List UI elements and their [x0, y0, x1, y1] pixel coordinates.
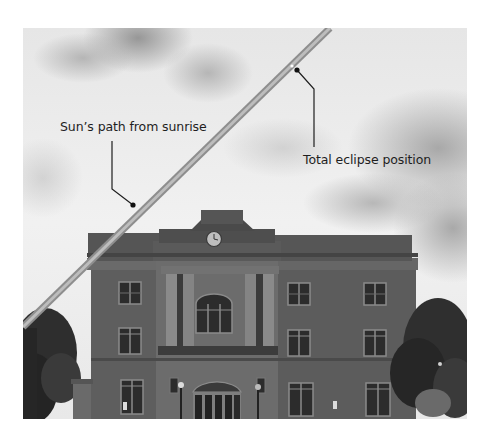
sun-path-label: Sun’s path from sunrise: [60, 119, 207, 134]
clock-icon: [207, 232, 222, 247]
eclipse-point: [290, 64, 293, 67]
eclipse-position-label: Total eclipse position: [303, 152, 431, 167]
courthouse-building: [71, 210, 418, 419]
photo-scene: [23, 28, 467, 419]
courthouse-photo: [23, 28, 467, 419]
